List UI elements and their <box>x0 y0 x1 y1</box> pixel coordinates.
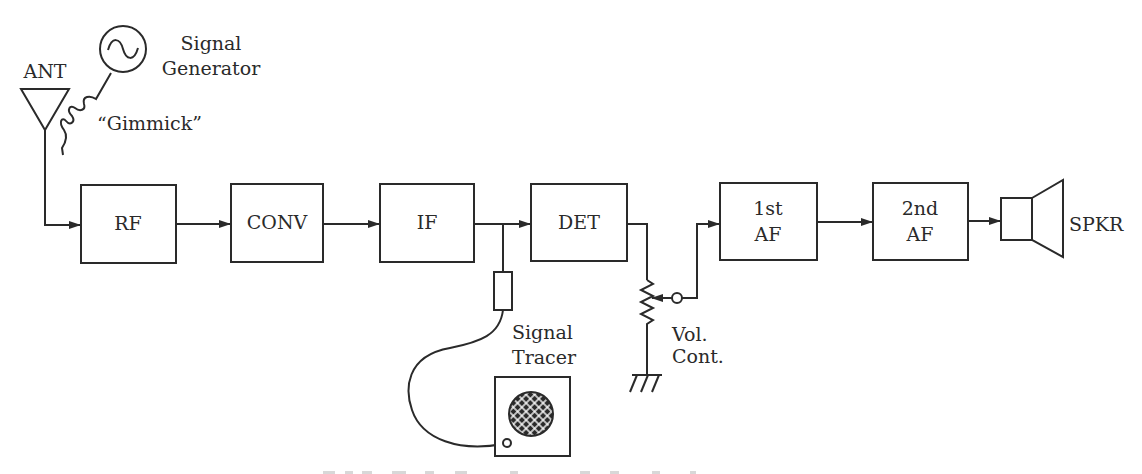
block-2nd-af-label-line1: 2nd <box>902 197 939 219</box>
speaker-icon <box>1001 180 1063 257</box>
speaker-grille-icon <box>509 392 553 436</box>
speaker-label: SPKR <box>1069 213 1124 235</box>
sine-wave-icon <box>108 40 138 58</box>
wire-det-to-volume <box>627 224 647 280</box>
probe-cable <box>409 310 503 446</box>
block-if: IF <box>380 184 474 262</box>
block-2nd-af-label-line2: AF <box>906 223 934 245</box>
signal-generator-label-line1: Signal <box>181 32 242 54</box>
receiver-block-diagram: ANT Signal Generator “Gimmick” RF CONV I… <box>0 0 1142 474</box>
ground-icon <box>630 375 662 392</box>
signal-tracer-label-line2: Tracer <box>512 346 577 368</box>
block-if-label: IF <box>417 211 438 233</box>
wire-volume-to-af1 <box>682 224 719 298</box>
block-conv-label: CONV <box>247 211 308 233</box>
potentiometer-icon <box>641 280 653 375</box>
probe-icon <box>494 272 512 310</box>
signal-generator: Signal Generator <box>100 26 261 79</box>
gimmick-label: “Gimmick” <box>97 112 202 134</box>
block-rf: RF <box>81 185 176 263</box>
signal-generator-label-line2: Generator <box>162 57 261 79</box>
speaker: SPKR <box>1001 180 1124 257</box>
block-conv: CONV <box>231 184 323 262</box>
block-det-label: DET <box>558 211 600 233</box>
input-jack-icon <box>503 439 511 447</box>
signal-tracer: Signal Tracer <box>495 321 577 456</box>
wire-ant-to-rf <box>45 130 80 225</box>
antenna-label: ANT <box>22 60 66 82</box>
signal-tracer-label-line1: Signal <box>512 321 573 343</box>
volume-control: Vol. Cont. <box>641 224 724 375</box>
volume-control-label-line2: Cont. <box>672 345 724 367</box>
block-1st-af-label-line1: 1st <box>753 197 783 219</box>
block-1st-af: 1st AF <box>720 183 817 260</box>
block-rf-label: RF <box>114 212 142 234</box>
volume-control-label-line1: Vol. <box>671 323 708 345</box>
gimmick-coil: “Gimmick” <box>61 73 202 155</box>
wiper-terminal-icon <box>672 293 682 303</box>
block-det: DET <box>531 184 627 261</box>
block-2nd-af: 2nd AF <box>873 183 968 260</box>
block-1st-af-label-line2: AF <box>754 223 782 245</box>
